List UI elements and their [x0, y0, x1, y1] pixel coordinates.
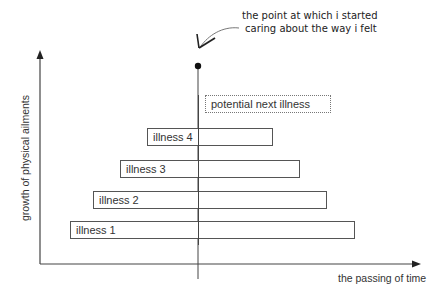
y-axis-arrow-icon [37, 50, 44, 59]
diagram-canvas [0, 0, 441, 296]
bar-label: illness 3 [126, 163, 166, 175]
x-axis-label: the passing of time [338, 272, 426, 284]
annotation-line-1: the point at which i started [242, 9, 378, 22]
bar-label: potential next illness [211, 98, 310, 110]
illness-1-bar: illness 1 [70, 221, 355, 239]
bar-label: illness 4 [153, 131, 193, 143]
annotation-line-2: caring about the way i felt [242, 22, 378, 35]
y-axis-label: growth of physical ailments [19, 95, 31, 221]
turning-point-line-overlay [198, 95, 199, 245]
illness-2-bar: illness 2 [93, 191, 327, 209]
bar-label: illness 2 [99, 194, 139, 206]
annotation-text: the point at which i started caring abou… [242, 9, 378, 35]
turning-point-dot [195, 63, 201, 69]
x-axis-arrow-icon [412, 261, 421, 268]
illness-3-bar: illness 3 [120, 160, 300, 178]
potential-next-illness-bar: potential next illness [205, 95, 331, 113]
illness-4-bar: illness 4 [147, 128, 273, 146]
bar-label: illness 1 [76, 224, 116, 236]
